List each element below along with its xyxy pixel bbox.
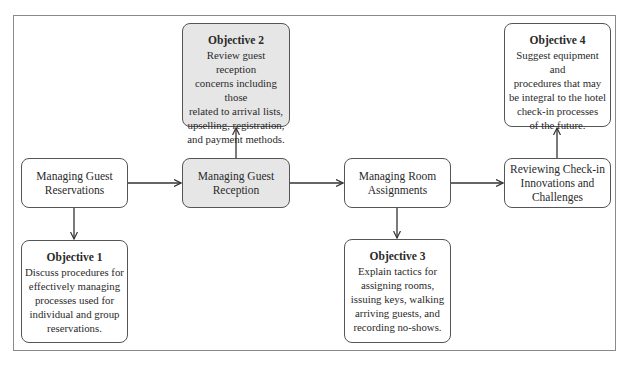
- stage-reviewing-check-in-innovations: Reviewing Check-in Innovations and Chall…: [504, 158, 611, 208]
- objective-title: Objective 2: [208, 33, 264, 47]
- objective-3-box: Objective 3 Explain tactics for assignin…: [344, 239, 451, 343]
- stage-label: Managing Guest Reservations: [36, 169, 112, 197]
- objective-title: Objective 1: [47, 250, 103, 264]
- objective-2-box: Objective 2 Review guest reception conce…: [182, 23, 290, 127]
- stage-managing-room-assignments: Managing Room Assignments: [344, 158, 451, 208]
- objective-title: Objective 3: [370, 249, 426, 263]
- objective-text: Explain tactics for assigning rooms, iss…: [348, 264, 447, 334]
- stage-label: Managing Room Assignments: [359, 169, 437, 197]
- objective-1-box: Objective 1 Discuss procedures for effec…: [21, 240, 128, 343]
- stage-managing-guest-reservations: Managing Guest Reservations: [21, 158, 128, 208]
- stage-label: Managing Guest Reception: [198, 169, 274, 197]
- stage-label: Reviewing Check-in Innovations and Chall…: [510, 162, 605, 204]
- objective-4-box: Objective 4 Suggest equipment and proced…: [504, 23, 611, 127]
- objective-text: Review guest reception concerns includin…: [183, 48, 289, 146]
- objective-text: Discuss procedures for effectively manag…: [22, 265, 127, 335]
- objective-text: Suggest equipment and procedures that ma…: [505, 48, 610, 132]
- stage-managing-guest-reception: Managing Guest Reception: [182, 158, 290, 208]
- objective-title: Objective 4: [530, 33, 586, 47]
